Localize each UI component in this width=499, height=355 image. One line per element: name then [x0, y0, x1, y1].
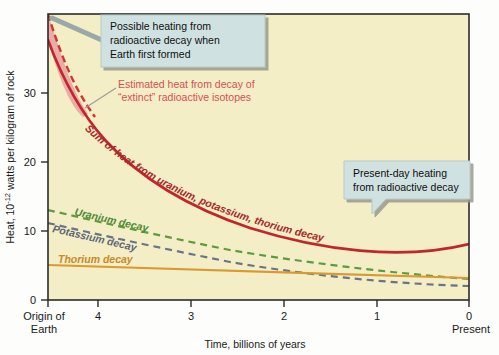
- y-tick-label-20: 20: [24, 156, 36, 168]
- x-present-label: Present: [452, 323, 490, 335]
- y-tick-label-0: 0: [30, 294, 36, 306]
- callout-present-day-heating-line2: from radioactive decay: [353, 181, 459, 193]
- label-extinct-isotopes-line2: “extinct” radioactive isotopes: [118, 91, 251, 103]
- x-tick-label-1: 1: [374, 310, 380, 322]
- x-axis-title: Time, billions of years: [204, 338, 305, 350]
- x-tick-label-2: 2: [281, 310, 287, 322]
- y-tick-label-30: 30: [24, 87, 36, 99]
- y-axis-title: Heat, 10-12 watts per kilogram of rock: [3, 70, 17, 244]
- callout-early-heating-line2: radioactive decay when: [110, 34, 220, 46]
- x-origin-label-line1: Origin of: [23, 310, 66, 322]
- x-tick-label-0: 0: [466, 310, 472, 322]
- thorium-curve-label: Thorium decay: [58, 253, 134, 265]
- x-axis-ticks: [48, 300, 469, 307]
- y-tick-label-10: 10: [24, 225, 36, 237]
- x-tick-label-4: 4: [95, 310, 101, 322]
- y-axis-ticks: [41, 93, 48, 300]
- x-origin-label-line2: Earth: [31, 323, 57, 335]
- label-extinct-isotopes-line1: Estimated heat from decay of: [118, 78, 255, 90]
- heat-vs-time-chart: 0 10 20 30 4 3 2 1 0 Origin of Earth Pre…: [0, 0, 499, 355]
- callout-early-heating-line1: Possible heating from: [110, 20, 211, 32]
- y-axis-title-sup: -12: [3, 193, 12, 204]
- y-axis-title-main: Heat, 10: [4, 204, 16, 244]
- x-tick-label-3: 3: [188, 310, 194, 322]
- svg-text:Heat, 10-12 watts per kilogram: Heat, 10-12 watts per kilogram of rock: [3, 70, 17, 244]
- y-axis-title-rest: watts per kilogram of rock: [4, 70, 16, 193]
- callout-present-day-heating-line1: Present-day heating: [353, 167, 447, 179]
- figure-container: 0 10 20 30 4 3 2 1 0 Origin of Earth Pre…: [0, 0, 499, 355]
- callout-early-heating-line3: Earth first formed: [110, 48, 191, 60]
